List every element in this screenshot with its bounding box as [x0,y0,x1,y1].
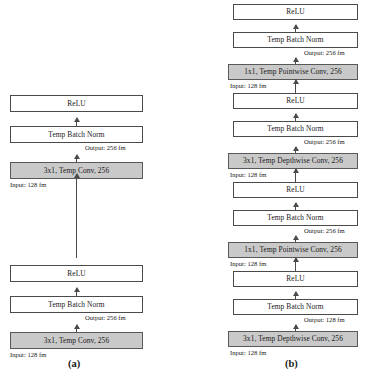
note-input-bottom: Input: 128 fm [10,352,46,359]
note-input-top: Input: 128 fm [10,182,46,189]
block-batchnorm-3: Temp Batch Norm [233,121,358,137]
note-input-4: Input: 128 fm [230,83,266,90]
note-input-3: Input: 128 fm [230,172,266,179]
block-conv-bottom: 3x1, Temp Conv, 256 [10,332,143,349]
caption-panel-b: (b) [285,358,298,369]
block-batchnorm-top: Temp Batch Norm [10,126,143,143]
note-input-1: Input: 128 fm [230,350,266,357]
block-pointwise-1: 1x1, Temp Pointwise Conv, 256 [228,242,358,258]
block-batchnorm-2: Temp Batch Norm [233,210,358,226]
note-input-2: Input: 128 fm [230,261,266,268]
arrow-bn2-to-relu2 [295,203,296,210]
panel-b: ReLU Temp Batch Norm Output: 256 fm 1x1,… [185,0,370,382]
block-relu-top: ReLU [10,95,143,112]
note-output-3: Output: 256 fm [304,139,345,146]
note-output-4: Output: 256 fm [304,50,345,57]
block-relu-2: ReLU [233,182,358,198]
note-output-top: Output: 256 fm [85,145,126,152]
block-relu-4: ReLU [233,4,358,20]
panel-a: ReLU Temp Batch Norm Output: 256 fm 3x1,… [0,0,185,382]
arrow-group-connector [76,174,77,258]
block-relu-1: ReLU [233,271,358,287]
block-batchnorm-bottom: Temp Batch Norm [10,296,143,313]
note-output-2: Output: 256 fm [304,228,345,235]
arrow-batchnorm-to-relu-top [76,118,77,126]
arrow-bn3-to-relu3 [295,114,296,121]
arrow-bn1-to-relu1 [295,292,296,299]
caption-panel-a: (a) [68,358,80,369]
note-output-1: Output: 128 fm [304,317,345,324]
block-relu-3: ReLU [233,93,358,109]
block-batchnorm-4: Temp Batch Norm [233,32,358,48]
arrow-bn4-to-relu4 [295,25,296,32]
block-depthwise-2: 3x1, Temp Depthwise Conv, 256 [228,153,358,169]
block-relu-bottom: ReLU [10,265,143,282]
block-depthwise-1: 3x1, Temp Depthwise Conv, 256 [228,331,358,347]
figure-root: ReLU Temp Batch Norm Output: 256 fm 3x1,… [0,0,370,382]
note-output-bottom: Output: 256 fm [85,315,126,322]
block-batchnorm-1: Temp Batch Norm [233,299,358,315]
block-pointwise-2: 1x1, Temp Pointwise Conv, 256 [228,64,358,80]
arrow-batchnorm-to-relu-bottom [76,288,77,296]
